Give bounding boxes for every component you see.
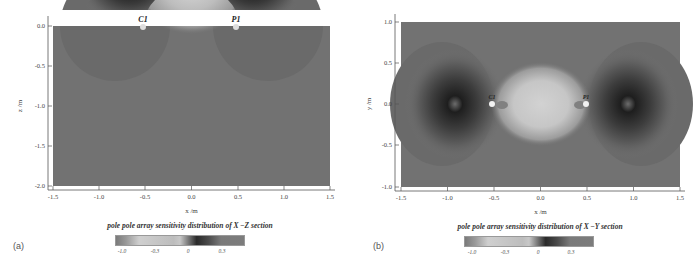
svg-text:1.0: 1.0 bbox=[384, 18, 392, 25]
electrode-p1-marker bbox=[583, 101, 589, 107]
y-ticks: 1.0 0.5 0.0 -0.5 -1.0 bbox=[382, 18, 399, 190]
colorbar-tick: 0.3 bbox=[219, 248, 226, 254]
electrode-c1-label: C1 bbox=[138, 15, 147, 24]
svg-text:1.5: 1.5 bbox=[326, 193, 334, 200]
x-ticks: -1.5 -1.0 -0.5 0.0 0.5 1.0 1.5 bbox=[396, 187, 684, 201]
svg-text:0.0: 0.0 bbox=[536, 194, 544, 201]
chart-title: pole pole array sensitivity distribution… bbox=[60, 221, 320, 230]
svg-text:-1.5: -1.5 bbox=[35, 142, 45, 149]
colorbar-tick: -0.3 bbox=[151, 248, 160, 254]
svg-text:0.0: 0.0 bbox=[187, 193, 195, 200]
svg-text:0.5: 0.5 bbox=[384, 59, 392, 66]
colorbar-tick: 0 bbox=[187, 248, 190, 254]
svg-text:-1.5: -1.5 bbox=[48, 193, 58, 200]
xy-section-heatmap: C1 P1 1.0 0.5 0.0 -0.5 -1.0 -1.5 -1.0 bbox=[350, 0, 699, 273]
svg-text:0.5: 0.5 bbox=[583, 194, 591, 201]
panel-b: C1 P1 1.0 0.5 0.0 -0.5 -1.0 -1.5 -1.0 bbox=[350, 0, 699, 273]
svg-text:1.0: 1.0 bbox=[629, 194, 637, 201]
colorbar-tick: -1.0 bbox=[118, 248, 127, 254]
svg-text:-0.5: -0.5 bbox=[382, 141, 392, 148]
x-axis-title: x /m bbox=[534, 208, 547, 216]
colorbar-tick: -1.0 bbox=[468, 249, 477, 255]
svg-text:-0.5: -0.5 bbox=[489, 194, 499, 201]
svg-text:-0.5: -0.5 bbox=[35, 62, 45, 69]
svg-text:-1.0: -1.0 bbox=[382, 183, 392, 190]
svg-text:-0.5: -0.5 bbox=[140, 193, 150, 200]
svg-text:0.0: 0.0 bbox=[384, 100, 392, 107]
y-axis-title: y /m bbox=[365, 97, 373, 110]
svg-text:1.5: 1.5 bbox=[676, 194, 684, 201]
electrode-c1-marker bbox=[140, 24, 146, 30]
svg-text:-1.5: -1.5 bbox=[396, 194, 406, 201]
electrode-p1-marker bbox=[233, 24, 239, 30]
svg-text:0.5: 0.5 bbox=[234, 193, 242, 200]
chart-title: pole pole array sensitivity distribution… bbox=[410, 222, 670, 231]
svg-text:-1.0: -1.0 bbox=[442, 194, 452, 201]
electrode-c1-marker bbox=[489, 101, 495, 107]
y-axis-title: z /m bbox=[16, 99, 24, 112]
x-ticks: -1.5 -1.0 -0.5 0.0 0.5 1.0 1.5 bbox=[48, 186, 334, 200]
panel-label-a: (a) bbox=[13, 241, 24, 251]
svg-text:-1.0: -1.0 bbox=[94, 193, 104, 200]
y-ticks: 0.0 -0.5 -1.0 -1.5 -2.0 bbox=[35, 22, 52, 189]
panel-label-b: (b) bbox=[373, 241, 384, 251]
colorbar-tick: 0.3 bbox=[568, 249, 575, 255]
electrode-c1-label: C1 bbox=[488, 94, 495, 100]
svg-text:0.0: 0.0 bbox=[37, 22, 45, 29]
colorbar-tick: 0 bbox=[537, 249, 540, 255]
colorbar-tick: -0.3 bbox=[501, 249, 510, 255]
colorbar bbox=[115, 235, 245, 246]
x-axis-title: x /m bbox=[185, 207, 198, 215]
colorbar bbox=[464, 236, 594, 247]
electrode-p1-label: P1 bbox=[583, 94, 590, 100]
panel-a: C1 P1 0.0 -0.5 -1.0 -1.5 -2.0 -1.5 bbox=[0, 0, 349, 273]
electrode-p1-label: P1 bbox=[232, 15, 241, 24]
svg-text:1.0: 1.0 bbox=[280, 193, 288, 200]
svg-text:-1.0: -1.0 bbox=[35, 102, 45, 109]
xz-section-heatmap: C1 P1 0.0 -0.5 -1.0 -1.5 -2.0 -1.5 bbox=[0, 0, 349, 273]
svg-text:-2.0: -2.0 bbox=[35, 182, 45, 189]
